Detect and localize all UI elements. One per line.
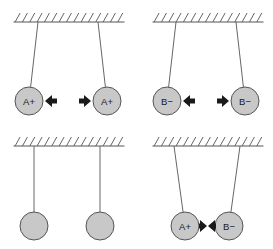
ceiling-hatch-mark	[52, 137, 57, 146]
two-positive-charges-repelling: A+A+	[14, 13, 124, 115]
ceiling-hatch-mark	[110, 137, 115, 146]
ball-charge-label: B−	[239, 96, 251, 107]
ball-charge-label: A+	[23, 96, 35, 107]
ceiling-hatch-mark	[81, 137, 86, 146]
ceiling-hatch-mark	[44, 13, 49, 22]
ceiling-hatch-mark	[213, 137, 218, 146]
ceiling-hatch-mark	[227, 13, 232, 22]
ceiling-support	[153, 137, 263, 146]
ceiling-hatch-mark	[88, 13, 93, 22]
ceiling-hatch-mark	[37, 13, 42, 22]
ball-charge-label: B−	[223, 221, 235, 232]
pendulum-ball: B−	[231, 87, 259, 115]
ceiling-hatch-mark	[257, 137, 262, 146]
opposite-charges-attracting: A+B−	[153, 137, 263, 240]
ceiling-hatch-mark	[176, 13, 181, 22]
ceiling-hatch-mark	[22, 13, 27, 22]
arrow-right-ball-force-arrow-icon	[208, 220, 216, 232]
ceiling-hatch-mark	[103, 137, 108, 146]
ceiling-hatch-mark	[30, 13, 35, 22]
ball-charge-label: A+	[101, 96, 113, 107]
ceiling-hatch-mark	[15, 13, 20, 22]
ceiling-support	[14, 13, 124, 22]
ceiling-hatch-mark	[227, 137, 232, 146]
ceiling-hatch-mark	[257, 13, 262, 22]
ceiling-hatch-mark	[183, 13, 188, 22]
ceiling-hatch-mark	[242, 137, 247, 146]
ceiling-hatch-mark	[161, 13, 166, 22]
ceiling-hatch-mark	[66, 13, 71, 22]
two-neutral-charges-at-rest	[14, 137, 124, 240]
ceiling-hatch-mark	[161, 137, 166, 146]
pendulum-ball	[20, 212, 48, 240]
pendulum-ball: B−	[215, 212, 243, 240]
pendulum-ball	[86, 212, 114, 240]
ceiling-hatch-mark	[52, 13, 57, 22]
pendulum-ball: A+	[171, 212, 199, 240]
ceiling-hatch-mark	[198, 13, 203, 22]
ceiling-hatch-mark	[118, 13, 123, 22]
ceiling-hatch-mark	[220, 137, 225, 146]
ceiling-hatch-mark	[59, 13, 64, 22]
ceiling-hatch-mark	[118, 137, 123, 146]
arrow-left-ball-force-arrow-icon	[199, 220, 207, 232]
ceiling-hatch-mark	[74, 137, 79, 146]
ceiling-hatch-mark	[154, 137, 159, 146]
charged-pendulums-figure: A+A+B−B−A+B−	[0, 0, 273, 249]
ceiling-hatch-mark	[191, 137, 196, 146]
ceiling-hatch-mark	[169, 13, 174, 22]
ceiling-hatch-mark	[103, 13, 108, 22]
ceiling-hatch-mark	[96, 13, 101, 22]
ceiling-hatch-mark	[242, 13, 247, 22]
ceiling-hatch-mark	[235, 13, 240, 22]
ceiling-hatch-mark	[154, 13, 159, 22]
ceiling-hatch-mark	[205, 137, 210, 146]
ceiling-hatch-mark	[191, 13, 196, 22]
pendulum-ball: B−	[153, 87, 181, 115]
ceiling-hatch-mark	[213, 13, 218, 22]
ball-body	[86, 212, 114, 240]
ceiling-hatch-mark	[81, 13, 86, 22]
arrow-left-ball-force-arrow-icon	[183, 95, 195, 107]
ceiling-hatch-mark	[220, 13, 225, 22]
ceiling-support	[153, 13, 263, 22]
ceiling-hatch-mark	[169, 137, 174, 146]
ceiling-hatch-mark	[198, 137, 203, 146]
ball-body	[20, 212, 48, 240]
arrow-right-ball-force-arrow-icon	[217, 95, 229, 107]
ceiling-hatch-mark	[59, 137, 64, 146]
arrow-left-ball-force-arrow-icon	[45, 95, 57, 107]
ceiling-hatch-mark	[37, 137, 42, 146]
ceiling-hatch-mark	[235, 137, 240, 146]
ceiling-hatch-mark	[15, 137, 20, 146]
two-negative-charges-repelling: B−B−	[153, 13, 263, 115]
ceiling-hatch-mark	[66, 137, 71, 146]
ceiling-hatch-mark	[74, 13, 79, 22]
ceiling-hatch-mark	[22, 137, 27, 146]
figure-root: A+A+B−B−A+B−	[0, 0, 273, 249]
ceiling-hatch-mark	[176, 137, 181, 146]
arrow-right-ball-force-arrow-icon	[79, 95, 91, 107]
ceiling-hatch-mark	[249, 137, 254, 146]
ceiling-hatch-mark	[30, 137, 35, 146]
ceiling-hatch-mark	[110, 13, 115, 22]
pendulum-ball: A+	[93, 87, 121, 115]
ceiling-hatch-mark	[44, 137, 49, 146]
pendulum-ball: A+	[15, 87, 43, 115]
ball-charge-label: A+	[179, 221, 191, 232]
ceiling-support	[14, 137, 124, 146]
ceiling-hatch-mark	[249, 13, 254, 22]
ball-charge-label: B−	[161, 96, 173, 107]
ceiling-hatch-mark	[88, 137, 93, 146]
ceiling-hatch-mark	[205, 13, 210, 22]
ceiling-hatch-mark	[96, 137, 101, 146]
ceiling-hatch-mark	[183, 137, 188, 146]
